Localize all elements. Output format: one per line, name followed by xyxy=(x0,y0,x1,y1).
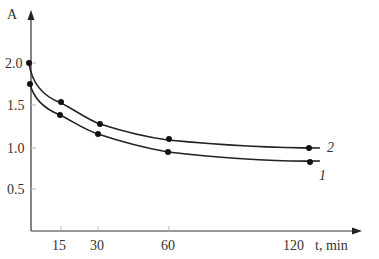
y-axis-label: A xyxy=(7,7,18,22)
series-2-label: 2 xyxy=(327,140,334,155)
x-tick-15: 15 xyxy=(52,238,66,253)
y-tick-2.0: 2.0 xyxy=(5,56,23,71)
series-1-label: 1 xyxy=(319,168,326,183)
chart: A t, min 2.0 1.5 1.0 0.5 15 30 60 120 2 xyxy=(0,0,379,259)
series-2-points xyxy=(26,60,312,151)
series-1-points xyxy=(27,81,313,165)
x-axis-label: t, min xyxy=(315,238,348,253)
x-tick-60: 60 xyxy=(161,238,175,253)
y-tick-0.5: 0.5 xyxy=(7,182,25,197)
y-axis-arrow-icon xyxy=(28,10,35,20)
y-tick-1.0: 1.0 xyxy=(7,141,25,156)
series-2-curve xyxy=(29,63,320,148)
x-tick-30: 30 xyxy=(90,238,104,253)
series-1-curve xyxy=(30,84,320,161)
x-tick-120: 120 xyxy=(283,238,304,253)
y-tick-1.5: 1.5 xyxy=(7,98,25,113)
x-axis-arrow-icon xyxy=(352,228,362,235)
x-ticks: 15 30 60 120 xyxy=(52,226,304,253)
